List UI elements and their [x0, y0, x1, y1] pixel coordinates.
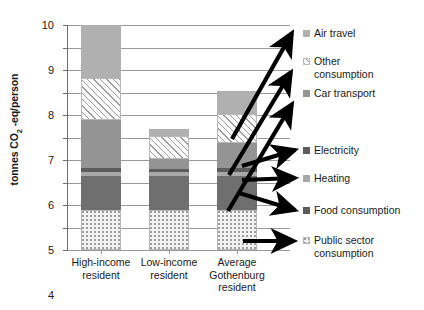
legend-item-other-consumption[interactable]: Other consumption [303, 55, 374, 80]
tick-mark-8: 8 [63, 70, 68, 71]
bar-average-gothenburg-resident [217, 91, 257, 250]
tick-mark-6: 6 [63, 115, 68, 116]
tick-mark-3: 3 [63, 183, 68, 184]
segment-food-consumption [81, 176, 121, 210]
y-axis-title-tail: -eq/person [8, 74, 20, 130]
x-tick-high-income-resident [101, 250, 102, 254]
segment-public-sector-consumption [149, 210, 189, 251]
mid-light-gray-swatch [303, 175, 310, 182]
tick-mark-9: 9 [63, 48, 68, 49]
y-tick-label-4: 4 [48, 289, 54, 301]
bar-high-income-resident [81, 25, 121, 250]
dark-gray-swatch [303, 147, 310, 154]
y-tick-label-5: 5 [48, 244, 54, 256]
segment-public-sector-consumption [81, 210, 121, 251]
y-tick-label-6: 6 [48, 199, 54, 211]
x-label-line: Average [191, 256, 283, 269]
legend-label: Car transport [314, 87, 375, 100]
y-tick-label-8: 8 [48, 109, 54, 121]
y-axis-title-subscript: 2 [15, 129, 24, 133]
legend-item-air-travel[interactable]: Air travel [303, 27, 355, 40]
y-axis-title: tonnes CO2 -eq/person [8, 40, 23, 220]
segment-car-transport [149, 159, 189, 169]
segment-car-transport [81, 120, 121, 168]
x-label-line: Gothenburg [191, 269, 283, 282]
segment-air-travel [81, 25, 121, 78]
legend-item-food-consumption[interactable]: Food consumption [303, 204, 400, 217]
segment-public-sector-consumption [217, 210, 257, 251]
x-label-average-gothenburg-resident: AverageGothenburgresident [191, 256, 283, 294]
light-gray-swatch [303, 30, 310, 37]
y-tick-label-10: 10 [42, 19, 54, 31]
segment-other-consumption [81, 78, 121, 120]
segment-air-travel [217, 91, 257, 114]
segment-food-consumption [149, 176, 189, 210]
segment-other-consumption [217, 114, 257, 143]
x-tick-low-income-resident [169, 250, 170, 254]
legend-label: Other consumption [314, 55, 374, 80]
legend-label: Food consumption [314, 204, 400, 217]
tick-mark-10: 10 [63, 25, 68, 26]
legend-label: Electricity [314, 144, 359, 157]
tick-mark-7: 7 [63, 93, 68, 94]
dark-gray-swatch [303, 207, 310, 214]
legend-item-electricity[interactable]: Electricity [303, 144, 359, 157]
tick-mark-5: 5 [63, 138, 68, 139]
x-tick-average-gothenburg-resident [237, 250, 238, 254]
x-label-line: resident [191, 281, 283, 294]
legend-item-car-transport[interactable]: Car transport [303, 87, 375, 100]
chart-legend: Air travelOther consumptionCar transport… [303, 0, 424, 310]
segment-food-consumption [217, 176, 257, 210]
legend-item-heating[interactable]: Heating [303, 172, 350, 185]
segment-other-consumption [149, 136, 189, 159]
legend-label: Heating [314, 172, 350, 185]
medium-gray-swatch [303, 90, 310, 97]
bar-low-income-resident [149, 129, 189, 251]
plot-area: 012345678910 [68, 25, 290, 250]
hatched-swatch [303, 58, 310, 65]
y-tick-label-7: 7 [48, 154, 54, 166]
white-dotted-swatch [303, 237, 310, 244]
segment-car-transport [217, 143, 257, 168]
legend-label: Air travel [314, 27, 355, 40]
legend-item-public-sector-consumption[interactable]: Public sector consumption [303, 234, 374, 259]
legend-label: Public sector consumption [314, 234, 374, 259]
y-tick-label-9: 9 [48, 64, 54, 76]
tick-mark-1: 1 [63, 228, 68, 229]
stacked-bar-chart: tonnes CO2 -eq/person 012345678910 High-… [0, 0, 424, 310]
tick-mark-2: 2 [63, 205, 68, 206]
tick-mark-0: 0 [63, 250, 68, 251]
tick-mark-4: 4 [63, 160, 68, 161]
segment-air-travel [149, 129, 189, 137]
y-axis-title-main: tonnes CO [8, 133, 20, 185]
